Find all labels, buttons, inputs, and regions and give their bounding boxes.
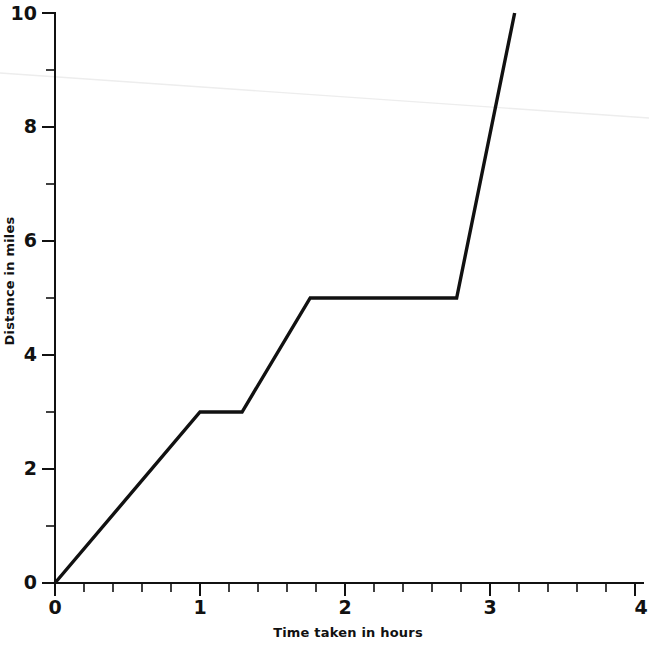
x-tick-label-3: 3 — [483, 596, 496, 618]
x-tick-label-2: 2 — [338, 596, 351, 618]
chart-canvas: 0 2 4 6 8 10 0 1 2 3 4 — [0, 0, 649, 664]
y-axis-title: Distance in miles — [2, 216, 17, 345]
x-tick-label-4: 4 — [634, 596, 647, 618]
y-tick-label-10: 10 — [11, 2, 37, 24]
distance-time-series-line — [55, 13, 515, 583]
distance-time-chart: 0 2 4 6 8 10 0 1 2 3 4 — [0, 0, 649, 664]
y-tick-label-6: 6 — [24, 229, 37, 251]
x-tick-label-1: 1 — [193, 596, 206, 618]
x-axis-title: Time taken in hours — [273, 625, 423, 640]
y-tick-label-4: 4 — [24, 343, 37, 365]
y-tick-label-2: 2 — [24, 457, 37, 479]
x-tick-label-0: 0 — [48, 596, 61, 618]
y-tick-label-0: 0 — [24, 571, 37, 593]
y-tick-label-8: 8 — [24, 115, 37, 137]
scan-artifact-streak — [0, 73, 649, 118]
